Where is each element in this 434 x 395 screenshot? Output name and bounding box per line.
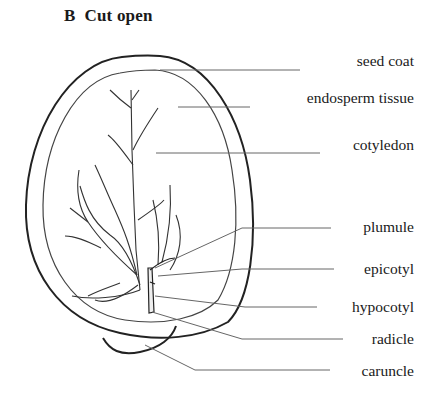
caruncle-shape <box>103 326 176 353</box>
label-seed-coat: seed coat <box>357 52 414 70</box>
leader-lines <box>145 70 343 370</box>
label-radicle: radicle <box>372 330 414 348</box>
leader-radicle <box>152 312 343 339</box>
label-plumule: plumule <box>363 218 414 236</box>
label-caruncle: caruncle <box>362 362 415 380</box>
embryo-axis <box>148 258 175 313</box>
seed-coat-outline <box>26 56 253 338</box>
leader-plumule <box>155 228 331 268</box>
leader-epicotyl <box>158 269 334 276</box>
label-cotyledon: cotyledon <box>353 136 414 154</box>
label-epicotyl: epicotyl <box>364 260 414 278</box>
label-hypocotyl: hypocotyl <box>352 298 414 316</box>
cotyledon-veins <box>65 90 180 301</box>
leader-hypocotyl <box>155 296 317 307</box>
leader-caruncle <box>145 345 330 370</box>
label-endosperm-tissue: endosperm tissue <box>307 89 414 107</box>
